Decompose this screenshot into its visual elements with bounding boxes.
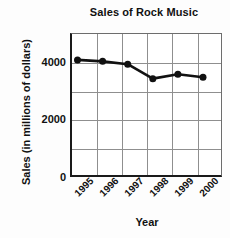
data-point: [174, 71, 181, 78]
data-point: [124, 61, 131, 68]
x-tick-label: 1995: [72, 175, 96, 199]
data-point: [149, 75, 156, 82]
y-tick-label: 4000: [22, 56, 66, 68]
chart-figure: Sales of Rock Music Sales (in millions o…: [0, 0, 230, 238]
data-point: [74, 56, 81, 63]
x-tick-label: 1996: [97, 175, 121, 199]
y-axis-ticks: 020004000: [20, 33, 66, 177]
x-tick-label: 1998: [147, 175, 171, 199]
data-point: [99, 58, 106, 65]
x-axis-title: Year: [68, 216, 226, 228]
x-tick-label: 1997: [122, 175, 146, 199]
x-tick-label: 2000: [197, 175, 221, 199]
series-polyline: [78, 60, 204, 79]
data-series-line: [72, 34, 224, 178]
x-tick-label: 1999: [172, 175, 196, 199]
y-tick-label: 2000: [22, 113, 66, 125]
x-axis-ticks: 199519961997199819992000: [70, 177, 222, 221]
data-point: [200, 74, 207, 81]
plot-area: [70, 33, 222, 177]
y-tick-label: 0: [22, 171, 66, 183]
chart-title: Sales of Rock Music: [62, 6, 226, 18]
